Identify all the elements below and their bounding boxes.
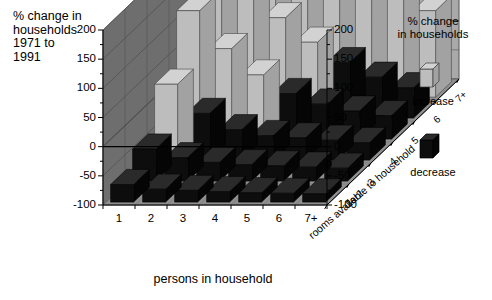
legend-cube-face: [420, 140, 433, 158]
y-tick-right-150: 150: [334, 52, 368, 64]
legend-cube-face: [420, 69, 433, 87]
x-tick-4: 4: [205, 212, 225, 224]
bar-front-face: [239, 193, 262, 202]
y-tick-right-100: 100: [334, 81, 368, 93]
legend-increase-label: increase: [378, 95, 488, 107]
bar-front-face: [207, 192, 230, 203]
y-tick-left-50: 50: [62, 111, 96, 123]
y-tick-right-0: 0: [334, 140, 368, 152]
bar-front-face: [111, 185, 134, 203]
y-tick-right-200: 200: [334, 23, 368, 35]
x-axis-title: persons in household: [108, 272, 318, 286]
x-tick-7+: 7+: [301, 212, 321, 224]
bar-front-face: [271, 193, 294, 202]
legend-decrease-swatch: [419, 133, 445, 159]
x-tick-1: 1: [109, 212, 129, 224]
y-tick-right-50: 50: [334, 111, 368, 123]
chart-root: % change in households 1971 to 1991 % ch…: [0, 0, 492, 300]
y-tick-left-0: 0: [62, 140, 96, 152]
y-tick-left--50: -50: [62, 169, 96, 181]
x-tick-5: 5: [237, 212, 257, 224]
y-tick-left-200: 200: [62, 23, 96, 35]
bar-front-face: [303, 194, 326, 202]
y-tick-left--100: -100: [62, 198, 96, 210]
legend-title: % change in households: [378, 15, 488, 41]
x-tick-3: 3: [173, 212, 193, 224]
bar-front-face: [175, 190, 198, 202]
x-tick-6: 6: [269, 212, 289, 224]
legend-increase-swatch: [419, 62, 445, 88]
y-tick-left-100: 100: [62, 81, 96, 93]
y-tick-left-150: 150: [62, 52, 96, 64]
x-tick-2: 2: [141, 212, 161, 224]
bar-front-face: [143, 189, 166, 202]
y-tick-right--50: -50: [334, 169, 368, 181]
